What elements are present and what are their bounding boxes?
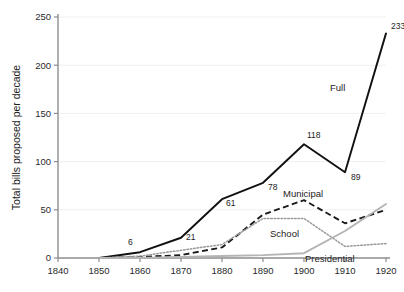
y-tick-label: 50 bbox=[40, 204, 51, 215]
point-label-118: 118 bbox=[307, 130, 321, 140]
x-tick-label: 1880 bbox=[211, 265, 232, 276]
point-label-89: 89 bbox=[351, 172, 361, 182]
x-tick-label: 1850 bbox=[88, 265, 109, 276]
x-tick-label: 1870 bbox=[170, 265, 191, 276]
x-tick-label: 1860 bbox=[129, 265, 150, 276]
y-tick-label: 0 bbox=[46, 252, 51, 263]
point-label-233: 233 bbox=[391, 21, 404, 31]
x-tick-label: 1900 bbox=[293, 265, 314, 276]
point-label-61: 61 bbox=[226, 198, 236, 208]
point-label-78: 78 bbox=[268, 182, 278, 192]
point-label-21: 21 bbox=[186, 232, 196, 242]
y-axis-title: Total bills proposed per decade bbox=[10, 65, 22, 211]
x-tick-label: 1840 bbox=[47, 265, 68, 276]
x-tick-label: 1890 bbox=[252, 265, 273, 276]
y-tick-label: 100 bbox=[35, 156, 51, 167]
chart-background bbox=[0, 0, 404, 292]
x-tick-label: 1910 bbox=[334, 265, 355, 276]
chart-container: 050100150200250 184018501860187018801890… bbox=[0, 0, 404, 292]
x-axis-tick-labels: 184018501860187018801890190019101920 bbox=[47, 265, 396, 276]
series-label-school: School bbox=[270, 228, 299, 239]
y-tick-label: 200 bbox=[35, 60, 51, 71]
series-label-presidential: Presidential bbox=[305, 253, 355, 264]
y-tick-label: 250 bbox=[35, 11, 51, 22]
line-chart: 050100150200250 184018501860187018801890… bbox=[0, 0, 404, 292]
point-label-6: 6 bbox=[128, 237, 133, 247]
x-tick-label: 1920 bbox=[375, 265, 396, 276]
series-label-full: Full bbox=[330, 82, 345, 93]
series-label-municipal: Municipal bbox=[283, 188, 323, 199]
y-tick-label: 150 bbox=[35, 108, 51, 119]
